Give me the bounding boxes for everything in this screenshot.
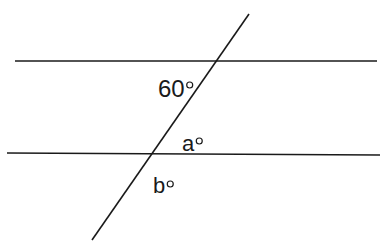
- angle-variable-a: a: [182, 131, 195, 156]
- angle-value-60: 60: [158, 75, 185, 102]
- transversal-line: [92, 14, 249, 240]
- angle-label-60: 60: [158, 75, 193, 102]
- angle-variable-b: b: [153, 173, 165, 198]
- degree-icon: [196, 138, 202, 144]
- angle-label-b: b: [153, 173, 173, 198]
- parallel-lines-diagram: 60 a b: [0, 0, 382, 241]
- degree-icon: [187, 82, 193, 88]
- degree-icon: [167, 181, 173, 187]
- angle-label-a: a: [182, 131, 202, 156]
